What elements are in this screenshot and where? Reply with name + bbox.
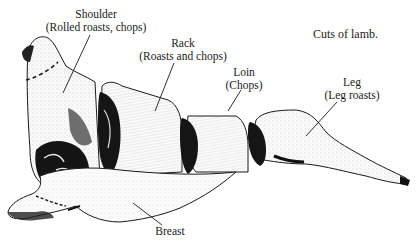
rack-cut bbox=[98, 82, 182, 176]
shoulder-label-use: (Rolled roasts, chops) bbox=[38, 21, 154, 34]
loin-label-name: Loin bbox=[222, 66, 266, 79]
loin-cut bbox=[180, 116, 248, 174]
lamb-cuts-illustration: Shoulder (Rolled roasts, chops) Rack (Ro… bbox=[0, 0, 420, 248]
shoulder-label: Shoulder (Rolled roasts, chops) bbox=[38, 8, 154, 34]
rack-label: Rack (Roasts and chops) bbox=[128, 37, 238, 63]
loin-label-use: (Chops) bbox=[222, 79, 266, 92]
leg-cut bbox=[248, 110, 410, 186]
rack-label-use: (Roasts and chops) bbox=[128, 50, 238, 63]
shoulder-label-name: Shoulder bbox=[38, 8, 154, 21]
shoulder-cut bbox=[22, 37, 100, 190]
leg-label: Leg (Leg roasts) bbox=[314, 76, 390, 102]
breast-label: Breast bbox=[148, 225, 192, 238]
loin-leader-line bbox=[228, 90, 241, 111]
figure-caption: Cuts of lamb. bbox=[313, 27, 378, 42]
loin-label: Loin (Chops) bbox=[222, 66, 266, 92]
breast-cut bbox=[8, 168, 236, 222]
breast-label-name: Breast bbox=[148, 225, 192, 238]
rack-label-name: Rack bbox=[128, 37, 238, 50]
leg-label-use: (Leg roasts) bbox=[314, 89, 390, 102]
leg-label-name: Leg bbox=[314, 76, 390, 89]
